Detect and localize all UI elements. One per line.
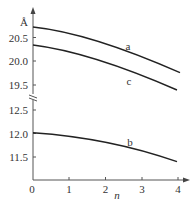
x-axis-arrow-icon xyxy=(183,178,190,183)
chart: 20.5 20.0 19.5 12.5 12.0 11.5 0 1 2 3 4 … xyxy=(0,0,195,208)
y-tick-label: 20.5 xyxy=(9,32,29,44)
y-tick-label: 12.5 xyxy=(9,104,29,116)
y-tick-label: 19.5 xyxy=(9,79,29,91)
curve-c xyxy=(33,45,177,90)
y-axis-label: Å xyxy=(20,16,28,28)
x-axis-label: n xyxy=(114,189,120,201)
y-tick-label: 12.0 xyxy=(9,128,29,140)
curve-a xyxy=(33,27,180,73)
curve-b xyxy=(33,133,177,162)
x-tick-label: 2 xyxy=(103,183,109,195)
curve-label-a: a xyxy=(126,40,131,52)
x-tick-label: 1 xyxy=(66,183,72,195)
x-tick-label: 4 xyxy=(175,183,181,195)
curve-label-b: b xyxy=(127,136,133,148)
y-axis-arrow-icon xyxy=(31,7,36,14)
y-tick-label: 20.0 xyxy=(9,55,29,67)
y-tick-label: 11.5 xyxy=(9,151,28,163)
x-tick-label: 3 xyxy=(139,183,145,195)
curve-label-c: c xyxy=(127,75,132,87)
x-tick-label: 0 xyxy=(29,183,35,195)
